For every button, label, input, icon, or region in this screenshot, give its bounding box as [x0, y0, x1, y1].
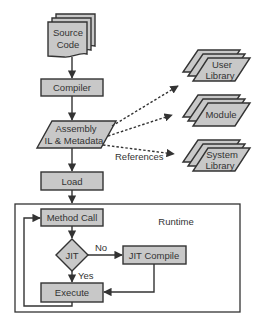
edge-jit-compile-to-execute	[104, 264, 154, 292]
node-system-library-line1: System	[206, 149, 238, 160]
node-system-library-line2: Library	[205, 160, 234, 171]
node-user-library-line1: User	[212, 59, 232, 70]
node-source-code: Source Code	[48, 14, 95, 57]
edge-label-no: No	[95, 242, 107, 253]
node-jit: JIT	[56, 239, 88, 271]
node-load-label: Load	[61, 176, 82, 187]
node-system-library: System Library	[183, 140, 250, 171]
node-assembly-line2: IL & Metadata	[45, 135, 105, 146]
edge-assembly-to-module	[108, 115, 172, 136]
node-method-call-label: Method Call	[47, 212, 98, 223]
node-source-code-line2: Code	[57, 39, 80, 50]
node-assembly-line1: Assembly	[55, 123, 96, 134]
node-compiler: Compiler	[41, 79, 103, 96]
node-method-call: Method Call	[41, 209, 103, 226]
node-user-library-line2: Library	[205, 70, 234, 81]
node-module-label: Module	[205, 109, 236, 120]
node-source-code-line1: Source	[53, 27, 83, 38]
edge-label-references: References	[115, 151, 164, 162]
node-assembly: Assembly IL & Metadata	[37, 121, 116, 148]
edge-assembly-to-user-library	[112, 86, 178, 126]
node-load: Load	[41, 172, 103, 190]
edge-label-yes: Yes	[78, 270, 94, 281]
group-runtime-label: Runtime	[158, 216, 193, 227]
node-execute: Execute	[41, 283, 103, 302]
node-jit-compile-label: JIT Compile	[129, 250, 180, 261]
node-module: Module	[183, 95, 250, 126]
node-compiler-label: Compiler	[53, 82, 91, 93]
node-jit-label: JIT	[65, 250, 78, 261]
node-jit-compile: JIT Compile	[123, 246, 186, 264]
clr-execution-diagram: Source Code Compiler Assembly IL & Metad…	[0, 0, 266, 329]
node-user-library: User Library	[183, 50, 250, 81]
node-execute-label: Execute	[55, 287, 89, 298]
